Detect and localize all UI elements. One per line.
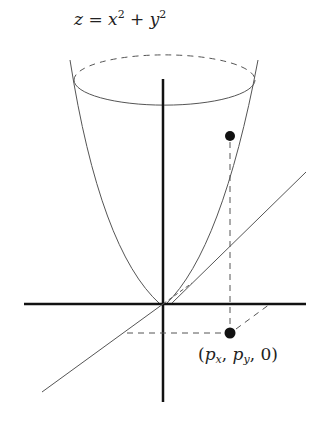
projected-point-label: (px, py, 0)	[198, 344, 278, 366]
diagonal-axis-hidden	[163, 283, 192, 304]
projection-diagonal	[236, 304, 270, 329]
rim-ellipse-front	[74, 80, 255, 105]
equation-label: z = x2 + y2	[74, 8, 166, 29]
rim-ellipse-back	[74, 55, 255, 80]
diagonal-axis-lower	[42, 304, 163, 392]
paraboloid-right-side	[166, 60, 258, 304]
paraboloid-left-side	[70, 60, 160, 304]
projected-point	[225, 328, 236, 339]
point-on-surface	[225, 131, 235, 141]
diagram-canvas: z = x2 + y2 (px, py, 0)	[0, 0, 325, 422]
